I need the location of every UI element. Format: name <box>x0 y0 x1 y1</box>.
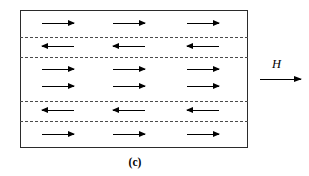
domain-wall-3 <box>20 121 248 122</box>
arrow-head <box>213 131 220 137</box>
domain-wall-1 <box>20 57 248 58</box>
arrow-head <box>139 131 146 137</box>
domain-wall-0 <box>20 37 248 38</box>
arrow-head <box>68 66 75 72</box>
domain-wall-2 <box>20 101 248 102</box>
arrow-head <box>213 66 220 72</box>
arrow-head <box>68 131 75 137</box>
arrow-head <box>186 107 193 113</box>
arrow-head <box>213 83 220 89</box>
arrow-head <box>41 107 48 113</box>
arrow-head <box>112 43 119 49</box>
arrow-head <box>139 66 146 72</box>
figure-caption: (c) <box>0 155 270 169</box>
arrow-head <box>68 83 75 89</box>
external-field-indicator: H <box>258 58 306 88</box>
figure-root: H (c) <box>0 0 309 176</box>
arrow-head <box>139 83 146 89</box>
arrow-head <box>68 20 75 26</box>
arrow-head <box>112 107 119 113</box>
field-arrow-head <box>294 76 302 82</box>
arrow-head <box>139 20 146 26</box>
field-label-H: H <box>272 58 281 71</box>
arrow-head <box>186 43 193 49</box>
arrow-head <box>213 20 220 26</box>
arrow-head <box>41 43 48 49</box>
specimen-rectangle <box>20 10 248 148</box>
